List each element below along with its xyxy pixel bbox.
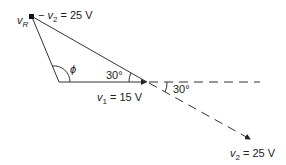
angle-top-arc	[129, 73, 131, 82]
vR-vector	[32, 17, 59, 82]
v2-vector	[149, 83, 250, 139]
angle-right-arc	[165, 82, 167, 92]
angle-right-label: 30°	[173, 83, 190, 95]
phi-angle-arc	[52, 66, 70, 82]
v1-label: v1 = 15 V	[97, 91, 143, 106]
neg-v2-label: − v2 = 25 V	[38, 9, 93, 24]
vR-tip-marker	[29, 14, 34, 19]
phi-label: ϕ	[70, 63, 76, 75]
angle-top-label: 30°	[106, 69, 123, 81]
vR-label: vR	[17, 14, 29, 29]
neg-v2-vector	[33, 17, 147, 82]
phasor-diagram: vR − v2 = 25 V ϕ 30° 30° v1 = 15 V v2 = …	[0, 0, 286, 165]
v2-label: v2 = 25 V	[230, 147, 276, 162]
